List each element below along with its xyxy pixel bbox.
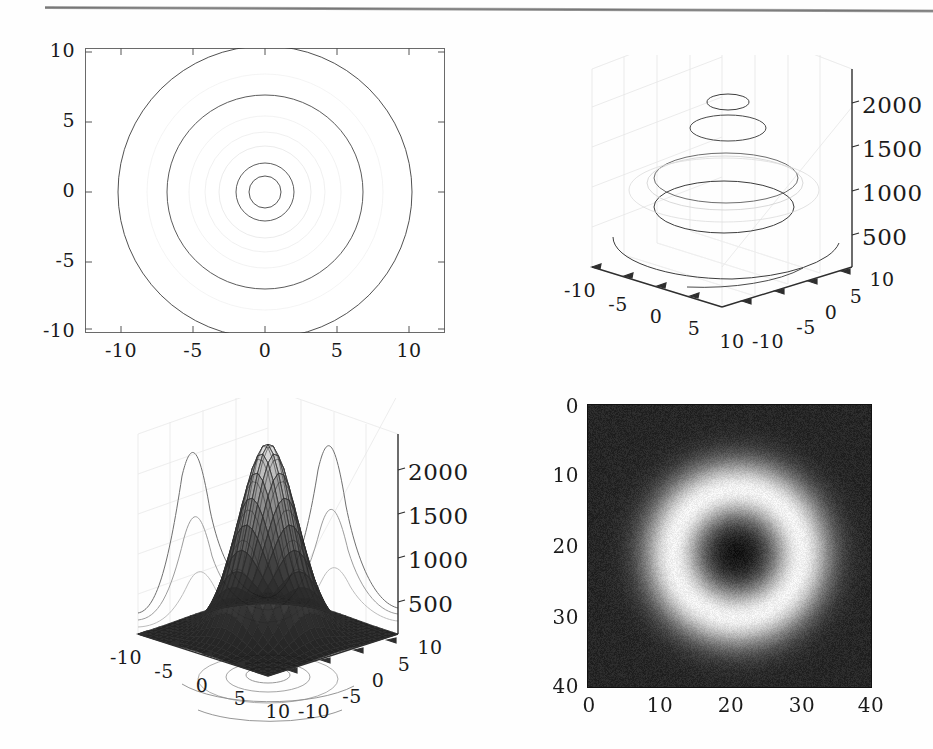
contour3d-ytick-3: 5	[850, 287, 863, 306]
contour2d-ytick-0: 10	[50, 41, 75, 60]
contour3d-ytick-1: -5	[796, 318, 816, 337]
surface3d-xtick-2: 0	[196, 676, 209, 695]
surface3d-xtick-3: 5	[234, 689, 247, 708]
contour2d-xtick-3: 5	[331, 341, 344, 360]
surface3d-ytick-2: 0	[372, 671, 385, 690]
surface3d-ztick-2: 1500	[408, 507, 469, 526]
surface3d-ytick-1: -5	[342, 687, 362, 706]
contour3d-plot: 500 1000 1500 2000 -10 -5 0 5 10 -10 -5 …	[556, 55, 933, 355]
image-xtick-0: 0	[582, 696, 595, 715]
contour2d-xtick-4: 10	[396, 341, 421, 360]
contour3d-xtick-2: 0	[650, 307, 663, 326]
image-xtick-4: 40	[858, 696, 884, 715]
image-ytick-4: 40	[553, 677, 579, 696]
image-plot: 0 10 20 30 40 0 10 20 30 40	[587, 404, 872, 688]
image-ytick-0: 0	[566, 397, 579, 416]
surface3d-ytick-0: -10	[298, 702, 330, 721]
surface3d-ytick-3: 5	[398, 655, 411, 674]
image-xtick-2: 20	[718, 696, 744, 715]
surface3d-ztick-1: 1000	[408, 551, 469, 570]
contour3d-ytick-0: -10	[752, 332, 784, 351]
contour3d-xtick-3: 5	[688, 319, 701, 338]
image-ytick-3: 30	[553, 608, 579, 627]
contour2d-ytick-1: 5	[62, 111, 75, 130]
surface3d-ytick-4: 10	[417, 638, 442, 657]
surface3d-xtick-1: -5	[154, 662, 174, 681]
page-top-rule	[45, 6, 933, 12]
surface3d-plot: 500 1000 1500 2000 -10 -5 0 5 10 -10 -5 …	[96, 398, 486, 728]
contour2d-xtick-2: 0	[259, 341, 272, 360]
contour3d-ztick-1: 1000	[862, 184, 923, 203]
contour2d-plot: 10 5 0 -5 -10 -10 -5 0 5 10	[85, 48, 445, 333]
contour3d-xtick-0: -10	[564, 281, 596, 300]
figure-page: 10 5 0 -5 -10 -10 -5 0 5 10	[0, 0, 933, 749]
surface3d-xtick-4: 10	[265, 702, 290, 721]
contour3d-ytick-4: 10	[869, 270, 894, 289]
contour3d-ztick-3: 2000	[862, 96, 923, 115]
contour2d-ytick-2: 0	[62, 181, 75, 200]
surface3d-ztick-0: 500	[408, 595, 453, 614]
contour3d-xtick-1: -5	[608, 295, 628, 314]
image-xtick-3: 30	[789, 696, 815, 715]
surface3d-ztick-3: 2000	[408, 463, 469, 482]
contour3d-ztick-0: 500	[862, 228, 907, 247]
contour3d-ztick-2: 1500	[862, 140, 923, 159]
image-heatmap	[587, 404, 872, 688]
image-ytick-1: 10	[553, 466, 579, 485]
contour2d-ytick-3: -5	[55, 251, 75, 270]
contour2d-xtick-0: -10	[105, 341, 137, 360]
contour2d-xtick-1: -5	[183, 341, 203, 360]
contour3d-xtick-4: 10	[719, 332, 744, 351]
contour2d-canvas	[85, 48, 445, 333]
contour3d-ytick-2: 0	[825, 303, 838, 322]
surface3d-xtick-0: -10	[110, 648, 142, 667]
contour2d-ytick-4: -10	[43, 321, 75, 340]
image-xtick-1: 10	[647, 696, 673, 715]
image-ytick-2: 20	[553, 537, 579, 556]
